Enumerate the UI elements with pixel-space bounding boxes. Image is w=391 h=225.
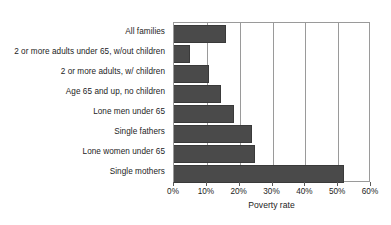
x-tick-label: 20% — [224, 187, 254, 196]
category-label: Age 65 and up, no children — [66, 82, 165, 102]
bar — [174, 65, 209, 83]
x-tick-mark — [304, 182, 305, 186]
x-tick-mark — [239, 182, 240, 186]
x-tick-label: 0% — [158, 187, 188, 196]
bar — [174, 25, 226, 43]
bar-row — [174, 123, 369, 143]
bar-row — [174, 143, 369, 163]
category-axis: All families2 or more adults under 65, w… — [0, 22, 170, 182]
x-tick-label: 30% — [257, 187, 287, 196]
bar — [174, 45, 190, 63]
category-label: Single fathers — [114, 122, 165, 142]
x-tick-mark — [272, 182, 273, 186]
category-label: Lone women under 65 — [83, 142, 165, 162]
bar-row — [174, 103, 369, 123]
bar — [174, 125, 252, 143]
category-label: All families — [125, 22, 165, 42]
x-tick-mark — [337, 182, 338, 186]
category-label: Single mothers — [110, 162, 165, 182]
plot-area — [173, 22, 370, 182]
x-tick-label: 60% — [355, 187, 385, 196]
bar-row — [174, 63, 369, 83]
bar — [174, 145, 255, 163]
bar-row — [174, 43, 369, 63]
bars-layer — [174, 23, 369, 181]
bar-row — [174, 83, 369, 103]
category-label: 2 or more adults under 65, w/out childre… — [14, 42, 165, 62]
x-tick-mark — [370, 182, 371, 186]
bar — [174, 165, 344, 183]
x-tick-label: 50% — [322, 187, 352, 196]
category-label: 2 or more adults, w/ children — [61, 62, 165, 82]
x-tick-mark — [173, 182, 174, 186]
x-tick-mark — [206, 182, 207, 186]
bar — [174, 85, 221, 103]
x-tick-label: 40% — [289, 187, 319, 196]
poverty-rate-bar-chart: All families2 or more adults under 65, w… — [0, 0, 391, 225]
bar-row — [174, 163, 369, 183]
bar — [174, 105, 234, 123]
bar-row — [174, 23, 369, 43]
x-tick-label: 10% — [191, 187, 221, 196]
category-label: Lone men under 65 — [93, 102, 165, 122]
x-axis-title: Poverty rate — [173, 200, 370, 210]
